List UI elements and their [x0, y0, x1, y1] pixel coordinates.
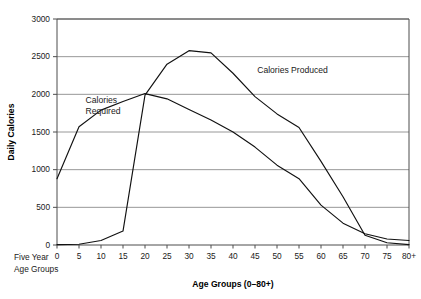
x-tick-label-45: 45	[250, 251, 260, 261]
x-tick-label-50: 50	[272, 251, 282, 261]
x-tick-label-25: 25	[162, 251, 172, 261]
corner-note-line-2: Age Groups	[14, 264, 58, 274]
x-tick-label-0: 0	[55, 251, 60, 261]
y-tick-label-2500: 2500	[32, 51, 51, 61]
series-annotation-calories-required-line-2: Required	[86, 106, 121, 116]
y-tick-label-3000: 3000	[32, 14, 51, 24]
series-annotation-calories-required-line-1: Calories	[86, 95, 118, 105]
x-tick-label-70: 70	[360, 251, 370, 261]
series-annotation-calories-produced-line-1: Calories Produced	[257, 65, 328, 75]
chart-figure: 050010001500200025003000 051015202530354…	[0, 0, 421, 299]
y-tick-label-500: 500	[36, 202, 50, 212]
x-tick-label-40: 40	[228, 251, 238, 261]
x-tick-label-15: 15	[118, 251, 128, 261]
x-tick-label-65: 65	[338, 251, 348, 261]
corner-note-line-1: Five Year	[14, 252, 49, 262]
y-axis-title: Daily Calories	[6, 103, 16, 160]
x-tick-label-30: 30	[184, 251, 194, 261]
x-tick-label-10: 10	[96, 251, 106, 261]
x-tick-label-5: 5	[77, 251, 82, 261]
x-tick-label-60: 60	[316, 251, 326, 261]
x-tick-label-20: 20	[140, 251, 150, 261]
y-tick-label-1500: 1500	[32, 127, 51, 137]
x-tick-label-75: 75	[382, 251, 392, 261]
x-tick-label-35: 35	[206, 251, 216, 261]
x-tick-label-55: 55	[294, 251, 304, 261]
x-axis-title: Age Groups (0–80+)	[192, 279, 274, 289]
y-tick-label-2000: 2000	[32, 89, 51, 99]
daily-calories-line-chart: 050010001500200025003000 051015202530354…	[0, 0, 421, 299]
y-tick-label-1000: 1000	[32, 164, 51, 174]
y-tick-label-0: 0	[45, 240, 50, 250]
x-tick-label-80+: 80+	[402, 251, 416, 261]
